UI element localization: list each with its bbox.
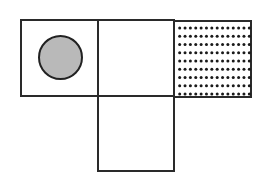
net-square-bottom <box>97 95 175 172</box>
gray-circle-icon <box>38 35 83 80</box>
net-square-middle <box>97 19 175 97</box>
net-square-right <box>173 20 252 98</box>
net-square-left <box>20 19 99 97</box>
dot-grid-pattern-icon <box>177 24 252 98</box>
